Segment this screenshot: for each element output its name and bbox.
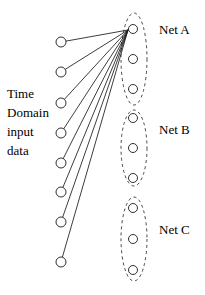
net-b-node (129, 114, 138, 123)
net-b-node (129, 144, 138, 153)
edge-line (62, 30, 128, 257)
edge-line (64, 30, 128, 129)
net-c-node (129, 235, 138, 244)
net-a-node (129, 25, 138, 34)
net-b-label: Net B (159, 122, 190, 138)
input-node (56, 217, 66, 227)
edge-line (64, 30, 128, 99)
edge-line (63, 30, 128, 187)
input-caption-line-2: Domain (7, 103, 49, 122)
input-caption: Time Domain input data (7, 84, 49, 160)
edge-line (63, 30, 128, 217)
input-node (56, 158, 66, 168)
net-a-node (129, 55, 138, 64)
input-node (56, 187, 66, 197)
net-c-node (129, 266, 138, 275)
input-caption-line-3: input (7, 122, 49, 141)
input-node (56, 128, 66, 138)
edge-line (63, 30, 128, 159)
diagram-canvas: Time Domain input data Net A Net B Net C (0, 0, 205, 295)
input-node (56, 37, 66, 47)
edges-layer (62, 30, 128, 257)
net-a-label: Net A (159, 22, 190, 38)
net-b-node (129, 174, 138, 183)
input-node (56, 67, 66, 77)
input-node (56, 98, 66, 108)
group-nodes-layer (129, 25, 138, 275)
input-nodes-layer (56, 37, 66, 267)
net-c-node (129, 204, 138, 213)
input-node (56, 257, 66, 267)
input-caption-line-1: Time (7, 84, 49, 103)
net-c-label: Net C (159, 222, 190, 238)
input-caption-line-4: data (7, 141, 49, 160)
net-a-node (129, 85, 138, 94)
